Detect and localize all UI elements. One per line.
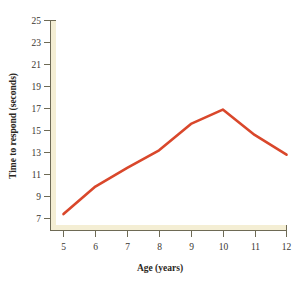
y-tick-label: 9 bbox=[36, 192, 41, 202]
y-tick-label: 23 bbox=[32, 38, 42, 48]
y-tick-label: 15 bbox=[32, 126, 42, 136]
x-tick-label: 9 bbox=[189, 242, 194, 252]
x-tick-label: 8 bbox=[157, 242, 162, 252]
y-tick-label: 11 bbox=[32, 170, 41, 180]
x-tick-label: 5 bbox=[61, 242, 66, 252]
line-chart: 25 23 21 19 17 15 13 11 9 7 5 6 7 bbox=[0, 0, 303, 284]
y-tick-label: 17 bbox=[32, 104, 42, 114]
y-axis-title: Time to respond (seconds) bbox=[8, 73, 19, 179]
x-tick-label: 12 bbox=[282, 242, 292, 252]
y-tick-label: 25 bbox=[32, 16, 42, 26]
x-axis-title: Age (years) bbox=[137, 263, 183, 274]
x-tick-label: 10 bbox=[219, 242, 229, 252]
y-tick-label: 7 bbox=[36, 214, 41, 224]
y-tick-label: 19 bbox=[32, 82, 42, 92]
x-tick-label: 11 bbox=[251, 242, 260, 252]
x-tick-label: 6 bbox=[93, 242, 98, 252]
y-tick-label: 21 bbox=[32, 60, 42, 70]
chart-canvas: 25 23 21 19 17 15 13 11 9 7 5 6 7 bbox=[0, 0, 303, 284]
x-tick-label: 7 bbox=[125, 242, 130, 252]
y-tick-label: 13 bbox=[32, 148, 42, 158]
